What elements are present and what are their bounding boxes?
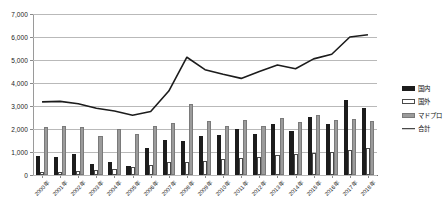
- y-axis-tick-label: 6,000: [11, 34, 28, 41]
- x-axis-tick-label: 2005年: [123, 179, 142, 198]
- bar-group: [51, 14, 69, 175]
- legend-item[interactable]: 合計: [402, 124, 442, 133]
- x-axis-label-cell: 2011年: [232, 176, 250, 214]
- legend-swatch-icon: [402, 126, 415, 131]
- x-axis-label-cell: 2007年: [160, 176, 178, 214]
- bar-group: [160, 14, 178, 175]
- bar-group: [124, 14, 142, 175]
- x-axis-tick-label: 2017年: [341, 179, 360, 198]
- legend-swatch-icon: [402, 86, 415, 91]
- bar-group: [178, 14, 196, 175]
- legend-item[interactable]: 国内: [402, 84, 442, 93]
- x-axis-tick-label: 2008年: [178, 179, 197, 198]
- x-axis-tick-label: 2006年: [141, 179, 160, 198]
- bar-group: [87, 14, 105, 175]
- bar-group: [359, 14, 377, 175]
- x-axis-label-cell: 2010年: [214, 176, 232, 214]
- bar-madopro: [316, 115, 320, 175]
- plot-area: 01,0002,0003,0004,0005,0006,0007,000: [33, 14, 377, 175]
- bar-group: [341, 14, 359, 175]
- x-axis-label-cell: 2015年: [305, 176, 323, 214]
- x-axis-tick: [187, 176, 188, 178]
- x-axis-label-cell: 2008年: [178, 176, 196, 214]
- legend-swatch-icon: [402, 113, 415, 118]
- x-axis-tick: [78, 176, 79, 178]
- x-axis-label-cell: 2000年: [33, 176, 51, 214]
- legend-label: 合計: [418, 124, 430, 133]
- bar-group: [305, 14, 323, 175]
- bar-madopro: [207, 121, 211, 175]
- legend-label: マドプロ: [418, 111, 442, 120]
- bar-madopro: [261, 126, 265, 175]
- bar-madopro: [352, 119, 356, 175]
- y-axis-tick-label: 2,000: [11, 126, 28, 133]
- x-axis-tick-label: 2007年: [159, 179, 178, 198]
- bar-madopro: [298, 122, 302, 175]
- x-axis-tick-label: 2009年: [196, 179, 215, 198]
- x-axis-tick-label: 2015年: [304, 179, 323, 198]
- x-axis-label-cell: 2005年: [124, 176, 142, 214]
- x-axis-label-cell: 2016年: [323, 176, 341, 214]
- x-axis-tick: [296, 176, 297, 178]
- x-axis-tick: [332, 176, 333, 178]
- bar-group: [232, 14, 250, 175]
- x-axis-tick: [241, 176, 242, 178]
- x-axis-tick: [368, 176, 369, 178]
- y-axis-tick-label: 5,000: [11, 57, 28, 64]
- chart-legend: 国内国外マドプロ合計: [402, 84, 442, 133]
- x-axis-tick-label: 2011年: [232, 179, 250, 197]
- bar-group: [287, 14, 305, 175]
- x-axis-tick: [114, 176, 115, 178]
- x-axis-tick-label: 2014年: [286, 179, 305, 198]
- bar-group: [105, 14, 123, 175]
- x-axis-tick-label: 2002年: [69, 179, 88, 198]
- x-axis-label-cell: 2003年: [87, 176, 105, 214]
- x-axis-tick: [151, 176, 152, 178]
- x-axis-tick-label: 2010年: [214, 179, 233, 198]
- bar-madopro: [135, 134, 139, 175]
- bar-group: [196, 14, 214, 175]
- x-axis-tick-label: 2003年: [87, 179, 106, 198]
- y-axis-tick-label: 1,000: [11, 149, 28, 156]
- legend-label: 国内: [418, 84, 430, 93]
- bar-madopro: [153, 126, 157, 175]
- x-axis-tick: [259, 176, 260, 178]
- bar-madopro: [225, 126, 229, 175]
- x-axis-tick: [223, 176, 224, 178]
- x-axis-tick-label: 2000年: [33, 179, 52, 198]
- bar-group: [142, 14, 160, 175]
- x-axis-tick-label: 2004年: [105, 179, 124, 198]
- bar-group: [214, 14, 232, 175]
- bar-group: [33, 14, 51, 175]
- chart-container: 01,0002,0003,0004,0005,0006,0007,000 200…: [0, 0, 444, 214]
- bar-madopro: [280, 118, 284, 176]
- x-axis-label-cell: 2004年: [105, 176, 123, 214]
- bar-madopro: [62, 126, 66, 175]
- x-axis-tick-label: 2001年: [51, 179, 70, 198]
- x-axis-label-cell: 2001年: [51, 176, 69, 214]
- x-axis-label-cell: 2018年: [359, 176, 377, 214]
- bar-madopro: [98, 136, 102, 175]
- legend-item[interactable]: 国外: [402, 97, 442, 106]
- x-axis-tick-label: 2013年: [268, 179, 287, 198]
- bar-madopro: [171, 123, 175, 175]
- y-axis-tick-label: 7,000: [11, 11, 28, 18]
- legend-item[interactable]: マドプロ: [402, 111, 442, 120]
- bar-madopro: [44, 127, 48, 175]
- x-axis-tick: [314, 176, 315, 178]
- x-axis-label-cell: 2014年: [287, 176, 305, 214]
- legend-label: 国外: [418, 97, 430, 106]
- x-axis-label-cell: 2006年: [142, 176, 160, 214]
- x-axis-tick: [205, 176, 206, 178]
- x-axis-tick-label: 2018年: [359, 179, 378, 198]
- x-axis-label-cell: 2012年: [250, 176, 268, 214]
- bar-group: [268, 14, 286, 175]
- x-axis-tick: [133, 176, 134, 178]
- x-axis-tick: [60, 176, 61, 178]
- x-axis-tick: [277, 176, 278, 178]
- x-axis-tick-label: 2012年: [250, 179, 269, 198]
- x-axis-label-cell: 2013年: [268, 176, 286, 214]
- x-axis-label-cell: 2009年: [196, 176, 214, 214]
- x-axis-tick: [169, 176, 170, 178]
- x-axis-label-cell: 2017年: [341, 176, 359, 214]
